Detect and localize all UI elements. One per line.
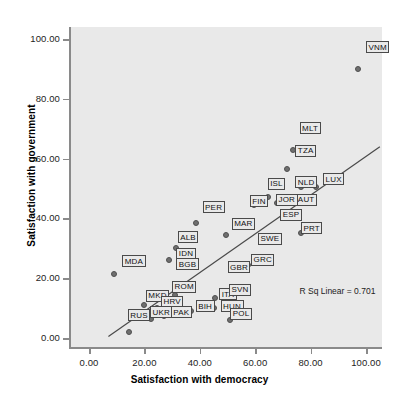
x-axis-title: Satisfaction with democracy [0,374,399,385]
y-axis-title: Satisfaction with government [26,56,37,296]
data-point-label: BGB [176,258,199,270]
y-tick-mark [63,278,69,280]
data-point-label: ISL [268,178,286,190]
y-tick-label: 40.00 [36,212,60,223]
data-point-label: ROM [172,281,196,293]
x-tick-mark [89,348,91,354]
y-tick-mark [63,99,69,101]
y-tick-mark [63,218,69,220]
data-point-label: POL [230,308,252,320]
data-point-label: MAR [232,218,255,230]
y-tick-mark [63,39,69,41]
x-axis-line [69,347,382,349]
y-tick-label: 60.00 [36,153,60,164]
y-tick-label: 0.00 [41,332,60,343]
data-point-label: GRC [251,254,274,266]
y-tick-label: 80.00 [36,93,60,104]
data-point [111,271,117,277]
data-point-label: FIN [250,195,269,207]
data-point-label: PAK [171,306,192,318]
data-point-label: TZA [295,145,316,157]
r-squared-annotation: R Sq Linear = 0.701 [300,286,376,296]
y-tick-label: 100.00 [30,33,60,44]
y-tick-mark [63,338,69,340]
x-tick-mark [144,348,146,354]
data-point-label: MLT [300,122,321,134]
data-point-label: ALB [178,231,199,243]
x-tick-mark [200,348,202,354]
data-point-label: ESP [280,209,302,221]
y-axis-line [69,27,71,348]
scatter-chart: 0.0020.0040.0060.0080.00100.00 0.0020.00… [0,0,399,403]
x-tick-label: 80.00 [281,357,341,368]
data-point [355,66,361,72]
x-tick-mark [255,348,257,354]
x-tick-mark [311,348,313,354]
data-point-label: MDA [122,255,145,267]
y-tick-mark [63,159,69,161]
data-point-label: GBR [228,261,251,273]
data-point-label: PER [203,201,225,213]
x-tick-label: 0.00 [59,357,119,368]
x-tick-label: 40.00 [170,357,230,368]
y-tick-label: 20.00 [36,272,60,283]
data-point [193,220,199,226]
data-point-label: NLD [295,176,317,188]
data-point-label: AUT [295,194,317,206]
data-point-label: SVN [229,284,251,296]
data-point-label: UKR [150,306,173,318]
x-tick-label: 60.00 [225,357,285,368]
x-tick-label: 100.00 [336,357,396,368]
data-point-label: JOR [276,194,298,206]
x-tick-mark [366,348,368,354]
data-point-label: SWE [258,233,282,245]
x-tick-label: 20.00 [114,357,174,368]
data-point [223,232,229,238]
data-point-label: VNM [366,41,389,53]
data-point-label: LUX [323,173,344,185]
data-point-label: RUS [128,309,151,321]
data-point-label: PRT [301,222,322,234]
data-point-label: BIH [196,300,215,312]
